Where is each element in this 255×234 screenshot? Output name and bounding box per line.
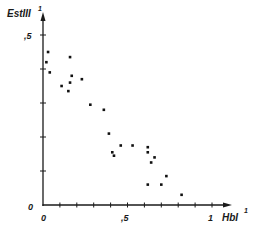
data-point [146,151,149,154]
data-point [111,151,114,154]
data-point [89,103,92,106]
data-point [146,183,149,186]
y-axis-label-superscript: 1 [38,5,42,12]
x-tick-label-1: 1 [208,213,213,223]
data-point [131,144,134,147]
data-point [81,78,84,81]
data-point [160,183,163,186]
data-point [119,144,122,147]
data-point [108,132,111,135]
x-tick-label-0: 0 [41,213,46,223]
data-points [45,51,183,196]
y-tick-label-0: 0 [28,202,33,212]
data-point [70,75,73,78]
y-tick-label-half: ,5 [23,31,33,41]
axes [41,12,233,208]
y-axis-label: EstIII [7,8,31,19]
data-point [67,90,70,93]
data-point [69,81,72,84]
data-point [113,154,116,157]
data-point [180,194,183,197]
data-point [165,175,168,178]
x-axis-label-superscript: 1 [244,207,248,214]
x-axis-label: HbI [222,212,238,223]
y-axis-arrow-icon [41,12,46,21]
data-point [69,56,72,59]
data-point [48,71,51,74]
x-axis-arrow-icon [223,203,232,208]
data-point [146,146,149,149]
data-point [60,85,63,88]
data-point [47,51,50,54]
data-point [103,109,106,112]
data-point [153,156,156,159]
data-point [150,161,153,164]
axis-ticks [40,35,212,208]
scatter-chart: EstIII 1 HbI 1 0 ,5 0 ,5 1 [0,0,255,234]
data-point [45,61,48,64]
x-tick-label-half: ,5 [120,213,130,223]
